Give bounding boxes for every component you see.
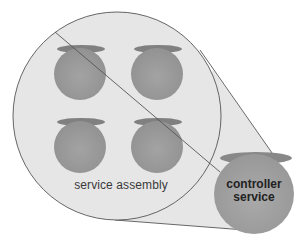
controller-service-label: controller service	[214, 178, 294, 204]
controller-label-line2: service	[214, 191, 294, 204]
diagram-canvas	[0, 0, 307, 245]
service-assembly-label: service assembly	[66, 178, 176, 192]
